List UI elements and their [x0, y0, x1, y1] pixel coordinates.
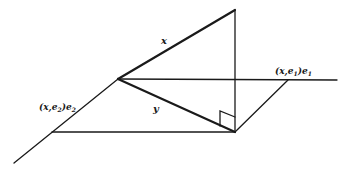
vector-projection-diagram: x y (x,e2)e2 (x,e1)e1: [0, 0, 348, 174]
label-projection-e2: (x,e2)e2: [39, 102, 76, 113]
vector-y-line: [118, 79, 235, 132]
axis-e1-line: [118, 79, 337, 80]
axis-e2-line: [14, 79, 118, 163]
label-y: y: [152, 103, 160, 114]
label-x: x: [160, 35, 168, 46]
label-projection-e1: (x,e1)e1: [275, 66, 312, 77]
parallelogram-right-edge: [235, 80, 288, 132]
vector-x-line: [118, 10, 235, 79]
right-angle-marker: [220, 111, 235, 126]
